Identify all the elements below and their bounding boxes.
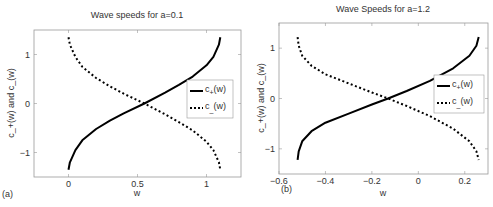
- y-axis-label-a: c_+(w) and c_(w): [6, 68, 16, 137]
- chart-panel-a: Wave speeds for a=0.1 00.51−101 w c_+(w)…: [2, 10, 241, 199]
- svg-text:1: 1: [270, 43, 275, 53]
- y-axis-label-b: c_+(w) and c_(w): [256, 63, 266, 132]
- svg-text:0: 0: [270, 94, 275, 104]
- svg-text:1: 1: [204, 179, 209, 189]
- figure: Wave speeds for a=0.1 00.51−101 w c_+(w)…: [0, 0, 493, 207]
- svg-text:0.2: 0.2: [459, 176, 472, 186]
- chart-title-a: Wave speeds for a=0.1: [91, 10, 183, 20]
- svg-text:−0.2: −0.2: [363, 176, 381, 186]
- svg-text:0: 0: [416, 176, 421, 186]
- panel-label-b: (b): [281, 184, 292, 194]
- legend-b: c+(w) c_(w): [434, 75, 484, 113]
- chart-title-b: Wave Speeds for a=1.2: [336, 4, 430, 14]
- svg-text:−1: −1: [265, 144, 275, 154]
- panel-label-a: (a): [2, 189, 13, 199]
- svg-text:1: 1: [25, 50, 30, 60]
- legend-a: c+(w) c_(w): [187, 80, 233, 118]
- svg-text:0: 0: [66, 179, 71, 189]
- svg-text:−0.4: −0.4: [317, 176, 335, 186]
- chart-panel-b: Wave Speeds for a=1.2 −0.6−0.4−0.200.2−1…: [256, 4, 488, 198]
- svg-text:−1: −1: [20, 148, 30, 158]
- x-axis-label-b: w: [379, 188, 387, 198]
- x-axis-label-a: w: [133, 188, 141, 198]
- svg-text:0: 0: [25, 99, 30, 109]
